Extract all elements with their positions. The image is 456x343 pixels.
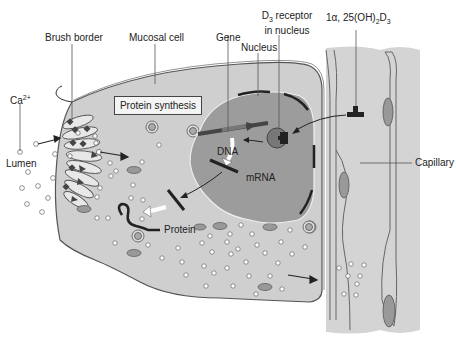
lumen-calcium: [18, 142, 58, 215]
label-mrna: mRNA: [246, 172, 275, 183]
label-nucleus: Nucleus: [241, 42, 277, 53]
capillary: [326, 46, 420, 333]
label-calcitriol: 1α, 25(OH)2D3: [326, 12, 391, 27]
label-protein-synthesis: Protein synthesis: [114, 96, 202, 115]
cell-illustration: [0, 0, 456, 343]
label-gene: Gene: [216, 32, 240, 43]
label-protein: Protein: [164, 224, 196, 235]
label-capillary: Capillary: [415, 157, 454, 168]
label-mucosal-cell: Mucosal cell: [129, 32, 184, 43]
diagram-canvas: Brush border Mucosal cell Gene Nucleus D…: [0, 0, 456, 343]
label-ca-ion: Ca2+: [10, 92, 31, 106]
label-brush-border: Brush border: [45, 32, 103, 43]
label-d3-receptor: D3 receptorin nucleus: [257, 10, 317, 36]
label-dna: DNA: [217, 146, 238, 157]
label-lumen: Lumen: [6, 158, 37, 169]
